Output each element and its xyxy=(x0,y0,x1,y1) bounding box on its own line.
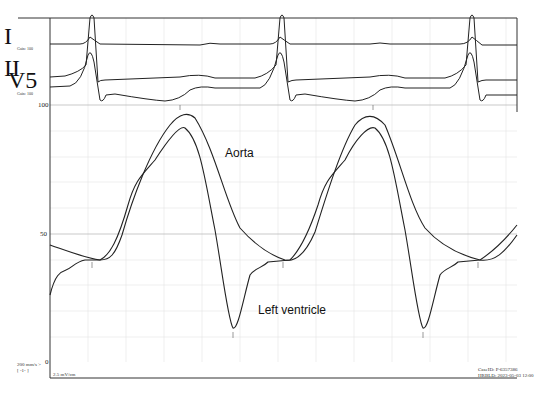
lead-gain-i: Gain: 100 xyxy=(17,46,33,51)
record-info: HRBLD: 2023-05-03 12:00 xyxy=(478,373,534,378)
lead-gain-v5: Gain: 100 xyxy=(17,91,33,96)
sweep-speed: 200 mm/s > xyxy=(17,362,41,367)
aorta-label: Aorta xyxy=(225,146,254,160)
y-tick-50: 50 xyxy=(40,230,47,238)
left-ventricle-label: Left ventricle xyxy=(258,303,326,317)
case-id: CaseID: P-6357386 xyxy=(478,367,518,372)
left-ventricle-trace xyxy=(50,128,517,328)
lead-label-i: I xyxy=(4,24,12,48)
lead-label-v5: V5 xyxy=(8,68,37,92)
y-tick-100: 100 xyxy=(38,101,49,109)
calibration-label: 2.5 mV/cm xyxy=(53,372,76,377)
y-tick-0: 0 xyxy=(45,358,49,366)
pressure-chart xyxy=(0,0,535,396)
ecg-traces xyxy=(50,15,517,101)
aorta-trace xyxy=(50,114,517,260)
scale-indicator: [ -1- ] xyxy=(17,368,29,373)
